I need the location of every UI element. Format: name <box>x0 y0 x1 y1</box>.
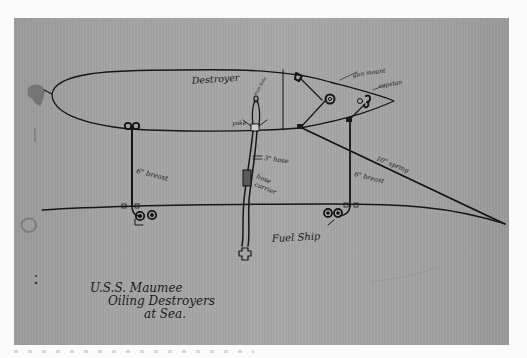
man-hole-label: man hole <box>253 76 268 97</box>
caption-line-1: U.S.S. Maumee <box>90 281 183 295</box>
gun-mount-label: gun mount <box>352 66 386 79</box>
forward-fittings <box>295 72 385 129</box>
caption-line-2: Oiling Destroyers <box>108 294 215 308</box>
sketch-caption: U.S.S. Maumee Oiling Destroyers at Sea. <box>90 281 215 321</box>
fuel-ship-label: Fuel Ship <box>271 230 322 244</box>
forward-breast-line <box>324 121 358 225</box>
aft-breast-label: 6" breast <box>136 167 170 183</box>
caption-line-3: at Sea. <box>144 307 186 321</box>
yoke-label: yoke <box>231 119 247 127</box>
spring-line <box>302 128 505 224</box>
destroyer-label: Destroyer <box>190 72 241 86</box>
hose-size-label: 3" hose <box>264 154 290 165</box>
ink-smudges <box>21 84 440 284</box>
rigging-diagram: Destroyer gun mount capstan man hole yok… <box>0 0 527 358</box>
capstan-label: capstan <box>378 78 403 90</box>
fuel-ship-hull <box>42 204 505 224</box>
scan-canvas: Destroyer gun mount capstan man hole yok… <box>0 0 527 358</box>
forward-breast-label: 6" breast <box>354 170 386 185</box>
scan-edge-artifact <box>14 350 254 353</box>
